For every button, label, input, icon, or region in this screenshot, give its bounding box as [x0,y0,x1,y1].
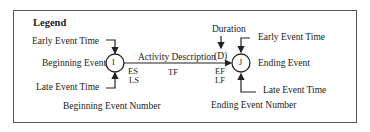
ending-event-number-label: Ending Event Number [211,100,296,111]
ls-label: LS [129,75,139,86]
begin-early-event-time-label: Early Event Time [32,36,99,47]
activity-description-label: Activity Description [138,52,216,63]
late-time-arrow-end [241,74,256,92]
end-late-event-time-label: Late Event Time [263,85,326,96]
beginning-event-number-label: Beginning Event Number [63,101,161,112]
begin-late-event-time-label: Late Event Time [36,82,99,93]
ending-event-label: Ending Event [258,58,310,69]
ending-node-label: J [239,57,242,68]
beginning-node-label: I [112,57,115,68]
early-time-arrow-begin [106,40,115,53]
early-time-arrow-end [241,38,250,52]
beginning-event-node [106,54,124,72]
legend-title: Legend [33,17,66,28]
end-early-event-time-label: Early Event Time [258,32,325,43]
late-time-arrow-begin [106,73,115,88]
duration-symbol: (D) [214,51,227,62]
tf-label: TF [168,67,178,78]
duration-label: Duration [212,24,246,35]
lf-label: LF [215,75,225,86]
beginning-event-label: Beginning Event [42,58,106,69]
